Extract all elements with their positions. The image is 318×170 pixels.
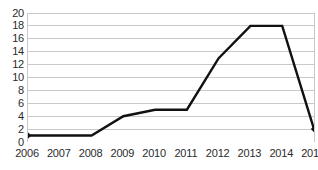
y-axis-tick-label: 0 xyxy=(18,137,24,148)
plot-area xyxy=(27,13,315,142)
y-axis-tick-labels: 02468101214161820 xyxy=(0,0,26,170)
y-axis-tick-label: 18 xyxy=(12,20,24,31)
gridlines xyxy=(28,13,314,142)
y-axis-tick-label: 14 xyxy=(12,46,24,57)
data-point-marker xyxy=(28,132,31,138)
x-axis-tick-label: 2012 xyxy=(206,147,230,160)
x-axis-tick-label: 2011 xyxy=(174,147,197,160)
x-axis-tick-label: 2006 xyxy=(15,147,39,160)
x-axis-tick-label: 2015 xyxy=(301,147,318,160)
y-axis-tick-label: 12 xyxy=(12,59,24,70)
data-series-group xyxy=(28,26,314,136)
x-axis-tick-labels: 2006200720082009201020112012201320142015 xyxy=(27,147,313,167)
y-axis-tick-label: 2 xyxy=(18,124,24,135)
plot-svg xyxy=(28,13,314,142)
x-axis-tick-label: 2014 xyxy=(269,147,293,160)
y-axis-tick-label: 6 xyxy=(18,98,24,109)
y-axis-tick-label: 20 xyxy=(12,8,24,19)
y-axis-tick-label: 16 xyxy=(12,33,24,44)
x-axis-tick-label: 2009 xyxy=(110,147,134,160)
x-axis-tick-label: 2007 xyxy=(47,147,71,160)
data-point-markers xyxy=(28,126,314,139)
y-axis-tick-label: 8 xyxy=(18,85,24,96)
x-axis-tick-label: 2010 xyxy=(142,147,166,160)
y-axis-tick-label: 4 xyxy=(18,111,24,122)
x-axis-tick-label: 2013 xyxy=(238,147,262,160)
x-axis-tick-label: 2008 xyxy=(79,147,103,160)
y-axis-tick-label: 10 xyxy=(12,72,24,83)
line-chart: 02468101214161820 2006200720082009201020… xyxy=(0,0,318,170)
data-line xyxy=(28,26,314,136)
